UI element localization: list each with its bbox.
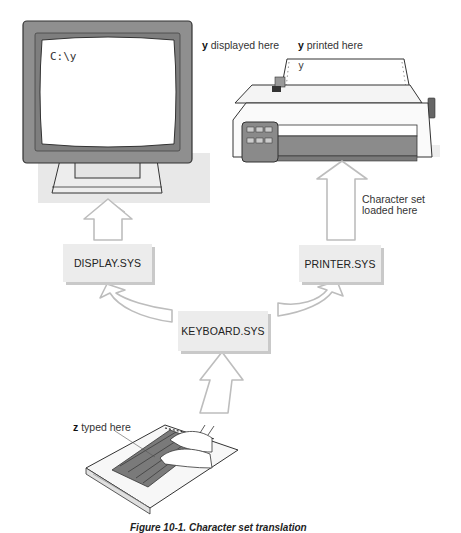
typed-annotation: z typed here: [73, 421, 131, 433]
arrow-curve-display: [100, 284, 172, 322]
typed-text: typed here: [78, 421, 131, 433]
arrow-up-keyboard: [200, 352, 243, 413]
displayed-annotation: y displayed here: [202, 39, 279, 51]
printer-sys-box: PRINTER.SYS: [299, 245, 381, 282]
charset-note-line2: loaded here: [362, 204, 417, 216]
printer-icon: [233, 59, 440, 162]
displayed-text: displayed here: [208, 39, 279, 51]
keyboard-sys-box: KEYBOARD.SYS: [178, 311, 268, 351]
figure-caption: Figure 10-1. Character set translation: [130, 522, 307, 533]
arrow-up-display: [84, 199, 132, 240]
display-sys-box: DISPLAY.SYS: [63, 244, 152, 282]
arrow-curve-printer: [278, 281, 343, 316]
keyboard-icon: [86, 425, 238, 514]
monitor-screen-text: C:\y: [50, 50, 77, 63]
arrow-up-printer: [317, 161, 367, 240]
printed-annotation: y printed here: [298, 39, 363, 51]
printer-paper-text: y: [298, 60, 304, 71]
printed-text: printed here: [304, 39, 363, 51]
